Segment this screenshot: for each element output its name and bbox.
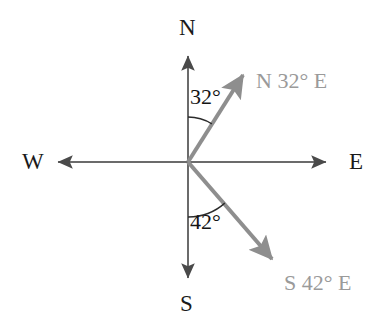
bearing-label-n32e: N 32° E: [256, 70, 327, 92]
cardinal-label-east: E: [349, 150, 363, 173]
bearing-label-s42e: S 42° E: [284, 272, 351, 294]
angle-label-32-degrees: 32°: [190, 86, 221, 108]
arc-angle-32: [188, 117, 212, 124]
compass-bearing-figure: N S W E 32° 42° N 32° E S 42° E: [0, 0, 380, 330]
angle-label-42-degrees: 42°: [190, 211, 221, 233]
cardinal-label-south: S: [180, 292, 193, 315]
cardinal-label-north: N: [179, 16, 196, 39]
cardinal-label-west: W: [22, 150, 44, 173]
